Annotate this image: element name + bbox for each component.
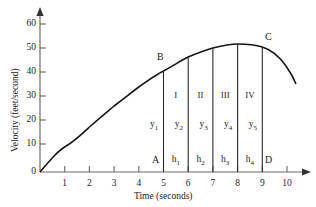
point-label-C: C xyxy=(265,32,272,42)
x-tick-label-1: 1 xyxy=(55,179,75,189)
ordinate-label-y5: y5 xyxy=(243,120,263,132)
point-label-A: A xyxy=(152,155,159,165)
strip-label-II: II xyxy=(191,91,211,100)
ordinate-label-y2: y2 xyxy=(169,120,189,132)
strip-width-label-h2: h2 xyxy=(191,155,211,167)
ordinate-sub-y5: 5 xyxy=(254,124,258,132)
width-sub-h2: 2 xyxy=(201,159,205,167)
x-tick-label-8: 8 xyxy=(228,179,248,189)
x-tick-label-5: 5 xyxy=(154,179,174,189)
ordinate-sub-y4: 4 xyxy=(229,124,233,132)
point-label-B: B xyxy=(157,52,164,62)
x-tick-label-10: 10 xyxy=(277,179,297,189)
x-axis-title: Time (seconds) xyxy=(134,192,193,202)
x-tick-label-9: 9 xyxy=(252,179,272,189)
strip-label-I: I xyxy=(166,91,186,100)
x-tick-label-6: 6 xyxy=(178,179,198,189)
ordinate-sub-y3: 3 xyxy=(204,124,208,132)
x-tick-label-4: 4 xyxy=(129,179,149,189)
strip-width-label-h4: h4 xyxy=(240,155,260,167)
strip-width-label-h3: h3 xyxy=(215,155,235,167)
y-tick-label-0: 0 xyxy=(8,167,36,177)
x-tick-label-2: 2 xyxy=(79,179,99,189)
y-axis-ticks xyxy=(40,24,46,144)
ordinate-sub-y2: 2 xyxy=(179,124,183,132)
point-label-D: D xyxy=(265,155,272,165)
y-tick-label-50: 50 xyxy=(8,43,36,53)
x-tick-label-3: 3 xyxy=(104,179,124,189)
velocity-time-chart: Velocity (feet/second) 60 50 40 30 20 10… xyxy=(0,0,316,207)
x-tick-label-7: 7 xyxy=(203,179,223,189)
x-axis-ticks xyxy=(65,166,287,172)
velocity-curve xyxy=(40,44,296,172)
strip-width-label-h1: h1 xyxy=(166,155,186,167)
ordinate-label-y1: y1 xyxy=(144,120,164,132)
y-tick-label-30: 30 xyxy=(8,91,36,101)
width-sub-h1: 1 xyxy=(176,159,180,167)
strip-label-IV: IV xyxy=(240,91,260,100)
y-tick-label-10: 10 xyxy=(8,139,36,149)
strip-label-III: III xyxy=(215,91,235,100)
y-axis-arrowhead xyxy=(36,7,43,16)
ordinate-label-y4: y4 xyxy=(218,120,238,132)
y-tick-label-60: 60 xyxy=(8,19,36,29)
x-axis-arrowhead xyxy=(302,168,311,175)
y-tick-label-20: 20 xyxy=(8,115,36,125)
y-tick-label-40: 40 xyxy=(8,67,36,77)
width-sub-h3: 3 xyxy=(226,159,230,167)
width-sub-h4: 4 xyxy=(251,159,255,167)
ordinate-label-y3: y3 xyxy=(194,120,214,132)
ordinate-sub-y1: 1 xyxy=(155,124,159,132)
